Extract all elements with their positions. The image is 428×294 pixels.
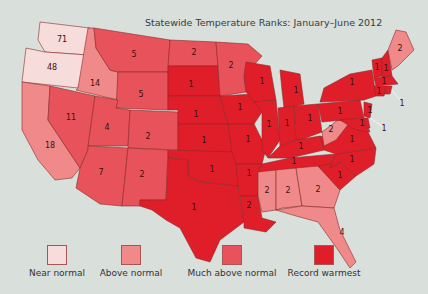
state-mo bbox=[228, 124, 266, 164]
label-ar: 1 bbox=[246, 169, 251, 178]
label-ks: 1 bbox=[201, 136, 206, 145]
state-nm bbox=[122, 148, 168, 206]
label-pa: 1 bbox=[337, 107, 342, 116]
label-sc: 1 bbox=[337, 171, 342, 180]
label-ut: 4 bbox=[104, 123, 109, 132]
label-ga: 2 bbox=[315, 185, 320, 194]
state-mi bbox=[280, 70, 304, 108]
label-fl: 4 bbox=[339, 228, 344, 237]
label-or: 48 bbox=[47, 63, 57, 72]
label-id: 14 bbox=[90, 79, 100, 88]
label-ca: 18 bbox=[45, 141, 55, 150]
label-ms: 2 bbox=[264, 186, 269, 195]
legend-swatch bbox=[314, 245, 334, 265]
label-co: 2 bbox=[145, 132, 150, 141]
label-wy: 5 bbox=[138, 90, 143, 99]
label-ia: 1 bbox=[237, 103, 242, 112]
label-md: 1 bbox=[359, 119, 364, 128]
label-me: 2 bbox=[397, 44, 402, 53]
legend-near-normal: Near normal bbox=[22, 245, 92, 278]
label-wv: 2 bbox=[328, 125, 333, 134]
label-tx: 1 bbox=[191, 203, 196, 212]
label-de: 1 bbox=[381, 124, 386, 133]
label-al: 2 bbox=[285, 186, 290, 195]
label-ky: 1 bbox=[298, 142, 303, 151]
label-nd: 2 bbox=[191, 48, 196, 57]
legend-above-normal: Above normal bbox=[96, 245, 166, 278]
label-mi: 1 bbox=[293, 86, 298, 95]
label-ne: 1 bbox=[193, 110, 198, 119]
label-ma: 1 bbox=[381, 77, 386, 86]
label-mt: 5 bbox=[131, 50, 136, 59]
label-nj: 1 bbox=[367, 106, 372, 115]
legend-much-above-normal: Much above normal bbox=[182, 245, 282, 278]
label-nm: 2 bbox=[139, 170, 144, 179]
legend-record-warmest: Record warmest bbox=[276, 245, 372, 278]
label-nc: 1 bbox=[349, 155, 354, 164]
label-wa: 71 bbox=[57, 35, 67, 44]
label-az: 7 bbox=[98, 168, 103, 177]
legend-swatch bbox=[222, 245, 242, 265]
legend: Near normal Above normal Much above norm… bbox=[0, 245, 428, 285]
state-ny bbox=[320, 70, 376, 102]
label-mn: 2 bbox=[228, 61, 233, 70]
label-ri: 1 bbox=[399, 99, 404, 108]
state-sd bbox=[168, 66, 220, 96]
label-il: 1 bbox=[266, 120, 271, 129]
label-mo: 1 bbox=[245, 135, 250, 144]
label-va: 1 bbox=[349, 135, 354, 144]
label-nv: 11 bbox=[66, 113, 76, 122]
label-ok: 1 bbox=[209, 165, 214, 174]
label-wi: 1 bbox=[259, 77, 264, 86]
label-nh: 1 bbox=[383, 64, 388, 73]
label-tn: 1 bbox=[291, 157, 296, 166]
legend-swatch bbox=[121, 245, 141, 265]
label-ny: 1 bbox=[349, 78, 354, 87]
legend-swatch bbox=[47, 245, 67, 265]
label-in: 1 bbox=[284, 119, 289, 128]
label-ct: 1 bbox=[376, 87, 381, 96]
label-la: 2 bbox=[246, 201, 251, 210]
label-sd: 1 bbox=[188, 80, 193, 89]
state-co bbox=[128, 110, 178, 150]
label-vt: 1 bbox=[374, 63, 379, 72]
label-oh: 1 bbox=[307, 114, 312, 123]
